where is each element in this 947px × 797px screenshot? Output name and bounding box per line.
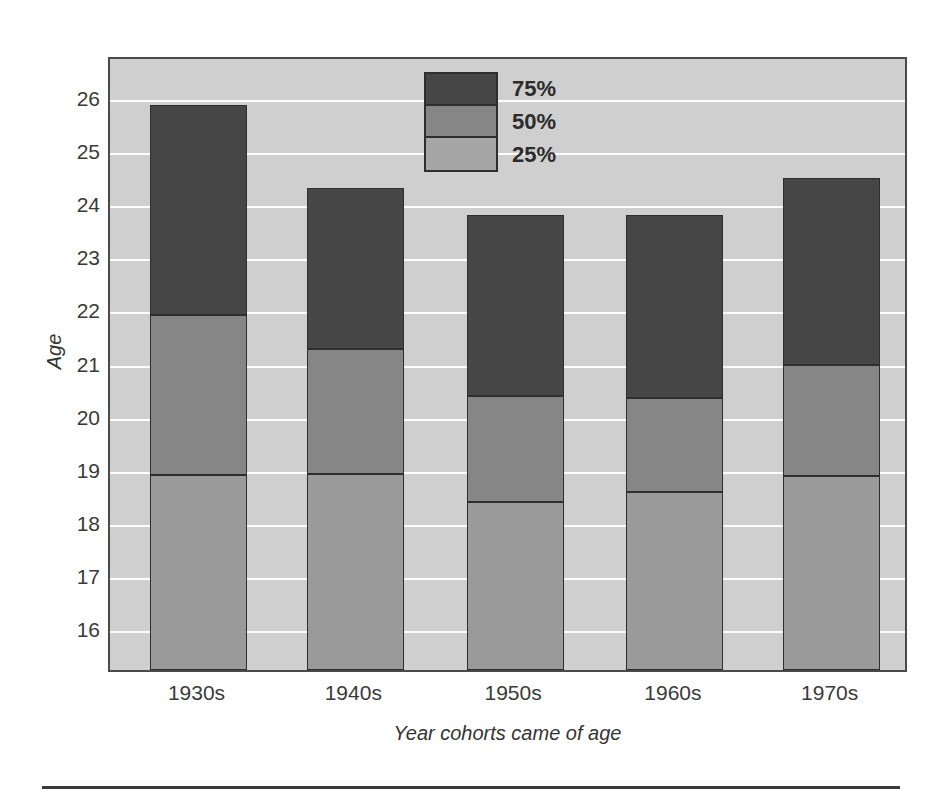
legend: 75% 50% 25% — [424, 68, 614, 178]
y-tick-label-20: 20 — [36, 406, 100, 430]
bar-segment-75-1960s — [626, 215, 723, 398]
bar-segment-50-1930s — [150, 315, 247, 476]
legend-label-75: 75% — [512, 76, 556, 102]
bar-segment-75-1940s — [307, 188, 404, 350]
chart-figure: Age 1617181920212223242526 75% 50% 25% 1… — [0, 0, 947, 797]
bar-1930s — [150, 57, 247, 670]
y-axis-ticks: 1617181920212223242526 — [20, 57, 100, 672]
x-axis-title: Year cohorts came of age — [108, 722, 907, 745]
y-tick-label-16: 16 — [36, 618, 100, 642]
y-tick-label-24: 24 — [36, 193, 100, 217]
bottom-rule — [42, 786, 900, 789]
y-tick-label-23: 23 — [36, 246, 100, 270]
bar-segment-50-1970s — [783, 365, 880, 476]
bar-segment-75-1950s — [467, 215, 564, 396]
bar-segment-25-1960s — [626, 492, 723, 670]
legend-swatch-stack — [424, 72, 498, 172]
bar-segment-25-1970s — [783, 476, 880, 670]
bar-segment-50-1950s — [467, 396, 564, 502]
legend-label-50: 50% — [512, 109, 556, 135]
bar-segment-25-1940s — [307, 474, 404, 670]
x-tick-label-1970s: 1970s — [801, 681, 858, 705]
bar-segment-75-1930s — [150, 105, 247, 314]
x-tick-label-1950s: 1950s — [484, 681, 541, 705]
legend-swatch-75 — [426, 74, 496, 106]
x-axis-ticks: 1930s1940s1950s1960s1970s — [108, 681, 907, 715]
x-tick-label-1930s: 1930s — [168, 681, 225, 705]
y-tick-label-22: 22 — [36, 299, 100, 323]
x-tick-label-1960s: 1960s — [644, 681, 701, 705]
y-tick-label-17: 17 — [36, 565, 100, 589]
y-tick-label-19: 19 — [36, 459, 100, 483]
bar-segment-75-1970s — [783, 178, 880, 365]
bar-1960s — [626, 57, 723, 670]
legend-label-25: 25% — [512, 142, 556, 168]
bar-segment-50-1940s — [307, 349, 404, 474]
x-tick-label-1940s: 1940s — [325, 681, 382, 705]
bar-segment-50-1960s — [626, 398, 723, 492]
bar-segment-25-1930s — [150, 475, 247, 670]
y-tick-label-25: 25 — [36, 140, 100, 164]
bar-1940s — [307, 57, 404, 670]
legend-swatch-25 — [426, 138, 496, 170]
y-tick-label-21: 21 — [36, 353, 100, 377]
bar-1970s — [783, 57, 880, 670]
y-tick-label-26: 26 — [36, 87, 100, 111]
bar-segment-25-1950s — [467, 502, 564, 670]
y-tick-label-18: 18 — [36, 512, 100, 536]
legend-swatch-50 — [426, 106, 496, 138]
